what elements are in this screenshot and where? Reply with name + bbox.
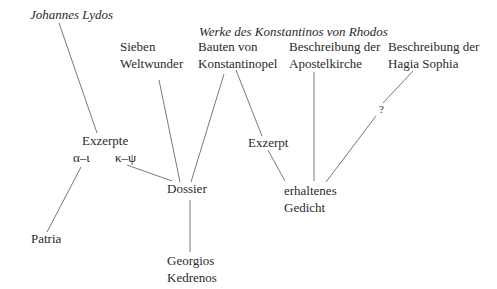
edge-sieben-dossier (159, 80, 180, 182)
node-exzerpte: Exzerpte (82, 133, 128, 149)
node-bauten-line2: Konstantinopel (198, 56, 277, 72)
node-exzerpt: Exzerpt (248, 135, 288, 151)
node-question-mark: ? (379, 101, 384, 117)
node-gedicht-line2: Gedicht (284, 200, 325, 216)
edge-question-gedicht (326, 116, 376, 182)
node-georgios-line1: Georgios (167, 253, 214, 269)
node-hagia-line2: Hagia Sophia (388, 56, 458, 72)
node-patria: Patria (31, 231, 61, 247)
node-apostel-line1: Beschreibung der (289, 39, 380, 55)
node-apostel-line2: Apostelkirche (289, 56, 362, 72)
edge-exzerpt-gedicht (268, 150, 285, 181)
node-sieben-line1: Sieben (120, 39, 155, 55)
edge-alpha-patria (47, 167, 81, 232)
node-hagia-line1: Beschreibung der (388, 39, 479, 55)
node-dossier: Dossier (167, 181, 207, 197)
edge-hagia-question (383, 71, 413, 103)
node-johannes-lydos: Johannes Lydos (30, 7, 113, 23)
node-georgios-line2: Kedrenos (167, 270, 217, 286)
edge-bauten-dossier (191, 74, 224, 182)
node-sieben-line2: Weltwunder (120, 56, 183, 72)
node-gedicht-line1: erhaltenes (284, 183, 337, 199)
node-bauten-line1: Bauten von (198, 39, 258, 55)
edge-lydos-exzerpte (59, 23, 97, 133)
node-werke-header: Werke des Konstantinos von Rhodos (199, 24, 388, 40)
edge-kappa-dossier (127, 165, 172, 181)
node-alpha-iota: α–ι (73, 150, 90, 166)
node-kappa-psi: κ–ψ (115, 150, 136, 166)
edge-bauten-exzerpt (236, 70, 262, 136)
